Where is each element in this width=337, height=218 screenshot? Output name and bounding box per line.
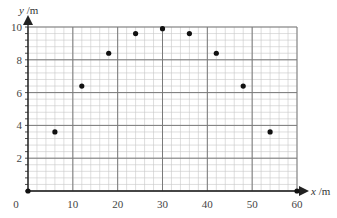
- y-tick-label: 6: [17, 87, 23, 99]
- x-tick-label: 10: [67, 198, 79, 210]
- x-tick-label: 20: [112, 198, 124, 210]
- data-point: [241, 83, 246, 88]
- data-point: [294, 188, 299, 193]
- x-tick-label: 50: [247, 198, 259, 210]
- x-tick-label: 30: [157, 198, 169, 210]
- data-point: [214, 51, 219, 56]
- data-point: [25, 188, 30, 193]
- x-tick-label: 60: [292, 198, 304, 210]
- x-tick-label: 40: [202, 198, 214, 210]
- y-tick-label: 10: [11, 21, 23, 33]
- y-axis-arrow-icon: [23, 15, 33, 25]
- data-point: [268, 129, 273, 134]
- x-axis-arrow-icon: [299, 186, 309, 196]
- x-axis-title: x /m: [310, 185, 331, 197]
- data-point: [160, 26, 165, 31]
- x-tick-label: 0: [13, 198, 19, 210]
- data-point: [52, 129, 57, 134]
- x-axis-unit: /m: [316, 185, 331, 197]
- data-point: [106, 51, 111, 56]
- y-axis-unit: /m: [24, 4, 39, 16]
- y-tick-label: 2: [17, 152, 23, 164]
- data-point: [187, 31, 192, 36]
- y-tick-label: 4: [17, 119, 23, 131]
- y-axis-title: y /m: [18, 4, 39, 16]
- data-point: [79, 83, 84, 88]
- y-tick-label: 8: [17, 54, 23, 66]
- major-grid: [28, 27, 297, 191]
- scatter-chart: 0102030405060246810 y /m x /m: [0, 0, 337, 218]
- data-point: [133, 31, 138, 36]
